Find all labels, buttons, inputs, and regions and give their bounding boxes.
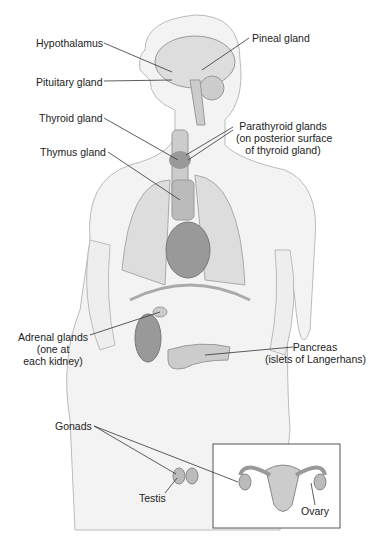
label-ovary: Ovary — [301, 505, 329, 517]
label-gonads: Gonads — [55, 420, 92, 432]
label-hypothalamus: Hypothalamus — [36, 37, 103, 49]
label-pineal-gland: Pineal gland — [252, 32, 310, 44]
label-testis: Testis — [139, 492, 166, 504]
ovary-right — [314, 474, 326, 490]
cerebellum — [200, 76, 224, 100]
label-pituitary-gland: Pituitary gland — [36, 76, 103, 88]
kidney — [135, 314, 161, 362]
testis-right — [186, 468, 198, 484]
label-parathyroid-glands: Parathyroid glands (on posterior surface… — [236, 120, 330, 156]
label-thymus-gland: Thymus gland — [40, 146, 106, 158]
heart — [166, 222, 210, 278]
label-thyroid-gland: Thyroid gland — [39, 112, 103, 124]
label-pancreas: Pancreas (islets of Langerhans) — [265, 341, 365, 365]
testis-left — [173, 468, 185, 484]
label-adrenal-glands: Adrenal glands (one at each kidney) — [16, 331, 90, 367]
thymus-organ — [172, 180, 194, 220]
ovary-left — [239, 474, 251, 490]
